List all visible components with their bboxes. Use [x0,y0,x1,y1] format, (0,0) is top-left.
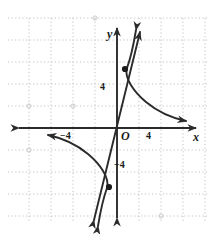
x-tick-label-neg4: −4 [60,131,71,141]
x-axis-label: x [193,131,199,143]
intersection-point-lower [106,184,112,190]
x-tick-label-4: 4 [146,131,151,141]
hyperbola-branch-upper-right [126,30,186,121]
intersection-point-upper [122,66,128,72]
grid-lines [8,18,207,222]
hyperbola-branch-lower-left [48,135,108,226]
y-tick-label-neg4: −4 [114,160,125,170]
coordinate-plane-svg [0,0,211,234]
y-tick-label-4: 4 [100,82,105,92]
graph-figure: y x O −4 4 4 −4 [0,0,211,234]
y-axis-label: y [107,28,112,40]
origin-label: O [121,130,130,142]
